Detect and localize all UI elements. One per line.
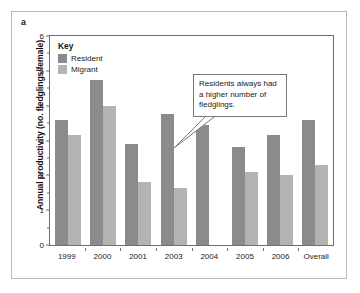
- legend-title: Key: [58, 41, 120, 51]
- y-axis-tick-label: 0: [40, 241, 44, 250]
- bar-resident: [267, 135, 280, 245]
- y-axis-tick-label: 6: [40, 32, 44, 41]
- bar-resident: [90, 80, 103, 245]
- legend-item-label: Migrant: [71, 65, 98, 74]
- x-axis-tick-label: Overall: [298, 248, 334, 261]
- bar-migrant: [245, 172, 258, 245]
- legend-swatch-resident: [58, 54, 67, 63]
- x-axis-tick-mark: [85, 248, 86, 251]
- x-axis-tick-label: 2006: [263, 248, 299, 261]
- bar-resident: [125, 144, 138, 245]
- x-axis-tick-label: 2004: [192, 248, 228, 261]
- y-axis-title: Annual productivity (no. fledglings/fema…: [35, 20, 45, 230]
- bar-group: [192, 36, 227, 245]
- x-axis-tick-label: 2003: [156, 248, 192, 261]
- y-axis-tick-label: 3: [40, 136, 44, 145]
- y-axis-tick-label: 5: [40, 66, 44, 75]
- x-axis-tick-mark: [120, 248, 121, 251]
- annotation-callout: Residents always had a higher number of …: [193, 74, 287, 117]
- x-axis-tick-mark: [298, 248, 299, 251]
- chart-legend: Key ResidentMigrant: [58, 41, 120, 76]
- legend-item-label: Resident: [71, 54, 103, 63]
- bar-migrant: [174, 188, 187, 245]
- bar-migrant: [138, 182, 151, 245]
- bar-group: [227, 36, 262, 245]
- x-axis-tick-mark: [227, 248, 228, 251]
- bar-resident: [196, 125, 209, 245]
- x-axis-tick-mark: [263, 248, 264, 251]
- bar-migrant: [103, 106, 116, 245]
- bar-resident: [55, 120, 68, 245]
- bar-migrant: [68, 135, 81, 245]
- panel-label: a: [21, 17, 26, 27]
- x-axis-labels: 1999200020012003200420052006Overall: [49, 248, 334, 261]
- x-axis-tick-label: 2000: [85, 248, 121, 261]
- bar-resident: [232, 147, 245, 245]
- x-axis-tick-label: 2005: [227, 248, 263, 261]
- y-axis-tick-label: 1: [40, 206, 44, 215]
- bar-group: [121, 36, 156, 245]
- y-axis-tick-label: 2: [40, 171, 44, 180]
- legend-items: ResidentMigrant: [58, 54, 120, 74]
- bar-resident: [302, 120, 315, 245]
- bar-migrant: [280, 175, 293, 245]
- figure-panel: a Annual productivity (no. fledglings/fe…: [11, 11, 347, 279]
- legend-item: Migrant: [58, 65, 120, 74]
- x-axis-tick-label: 2001: [120, 248, 156, 261]
- bar-resident: [161, 114, 174, 245]
- bar-group: [298, 36, 333, 245]
- bar-migrant: [315, 165, 328, 245]
- bar-group: [262, 36, 297, 245]
- x-axis-tick-label: 1999: [49, 248, 85, 261]
- y-axis-tick-label: 4: [40, 101, 44, 110]
- legend-item: Resident: [58, 54, 120, 63]
- x-axis-tick-mark: [192, 248, 193, 251]
- legend-swatch-migrant: [58, 65, 67, 74]
- x-axis-tick-mark: [156, 248, 157, 251]
- bar-group: [156, 36, 191, 245]
